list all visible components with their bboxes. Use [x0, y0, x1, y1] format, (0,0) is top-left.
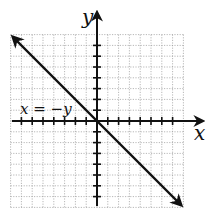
y-axis-label: y — [81, 5, 94, 29]
coordinate-plane: y x x = −y — [0, 0, 212, 215]
x-axis-label: x — [194, 121, 205, 145]
line-label: x = −y — [20, 100, 72, 118]
